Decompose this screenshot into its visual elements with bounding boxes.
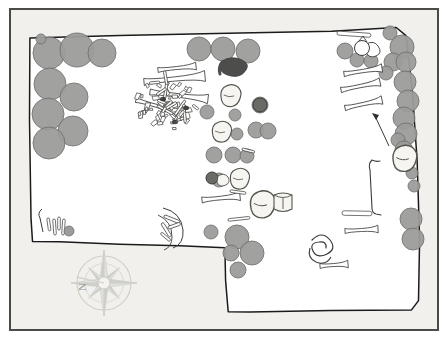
- vessel-cylinder-south: [274, 193, 292, 212]
- site-plan-plate: N: [0, 0, 448, 339]
- vessel-pot-south: [250, 191, 275, 218]
- north-central-stones: [187, 37, 260, 63]
- compass-north-label: N: [76, 283, 88, 291]
- vessel-east-edge: [393, 145, 417, 171]
- sherd-small: [217, 174, 229, 186]
- site-plan-drawing: [0, 0, 448, 339]
- vessel-north: [221, 85, 241, 107]
- vessel-lower: [230, 168, 249, 189]
- vessel-mid: [212, 121, 231, 142]
